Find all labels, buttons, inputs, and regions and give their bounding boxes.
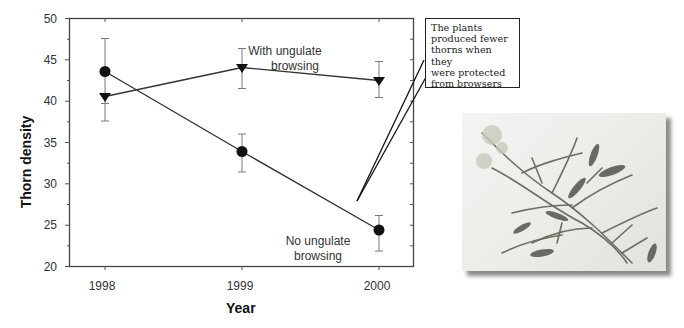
series-label-without-line1: No ungulate <box>286 234 351 248</box>
thorny-plant-photo <box>462 113 666 271</box>
y-tick-labels: 50 45 40 35 30 25 20 <box>44 12 58 274</box>
callout-line: from browsers <box>431 78 514 89</box>
callout-line: thorns when they <box>431 44 514 66</box>
callout-line: were protected <box>431 67 514 78</box>
y-axis-ticks <box>65 19 413 267</box>
x-tick-label: 2000 <box>364 279 391 293</box>
plant-branch-icon <box>462 113 666 271</box>
x-tick-label: 1999 <box>227 279 254 293</box>
series-label-without-line2: browsing <box>294 249 342 263</box>
callout-line: The plants <box>431 22 514 33</box>
callout-line: produced fewer <box>431 33 514 44</box>
data-point-circle <box>100 66 111 77</box>
callout-pointer <box>357 60 430 201</box>
markers-no-browsing <box>100 66 385 236</box>
data-point-triangle <box>373 77 385 86</box>
data-point-circle <box>237 146 248 157</box>
data-point-triangle <box>99 93 111 102</box>
y-tick-label: 35 <box>44 136 58 150</box>
series-label-with-line2: browsing <box>271 59 319 73</box>
error-bars-with-browsing <box>101 49 383 104</box>
y-tick-label: 30 <box>44 177 58 191</box>
data-point-circle <box>374 225 385 236</box>
y-tick-label: 40 <box>44 94 58 108</box>
series-label-with-line1: With ungulate <box>248 44 322 58</box>
y-axis-title: Thorn density <box>18 112 34 212</box>
y-tick-label: 50 <box>44 12 58 26</box>
y-tick-label: 25 <box>44 218 58 232</box>
callout-box: The plants produced fewer thorns when th… <box>425 18 520 88</box>
y-tick-label: 45 <box>44 53 58 67</box>
x-axis-title: Year <box>226 300 256 316</box>
x-tick-label: 1998 <box>89 279 116 293</box>
x-tick-labels: 1998 1999 2000 <box>89 279 391 293</box>
y-tick-label: 20 <box>44 260 58 274</box>
